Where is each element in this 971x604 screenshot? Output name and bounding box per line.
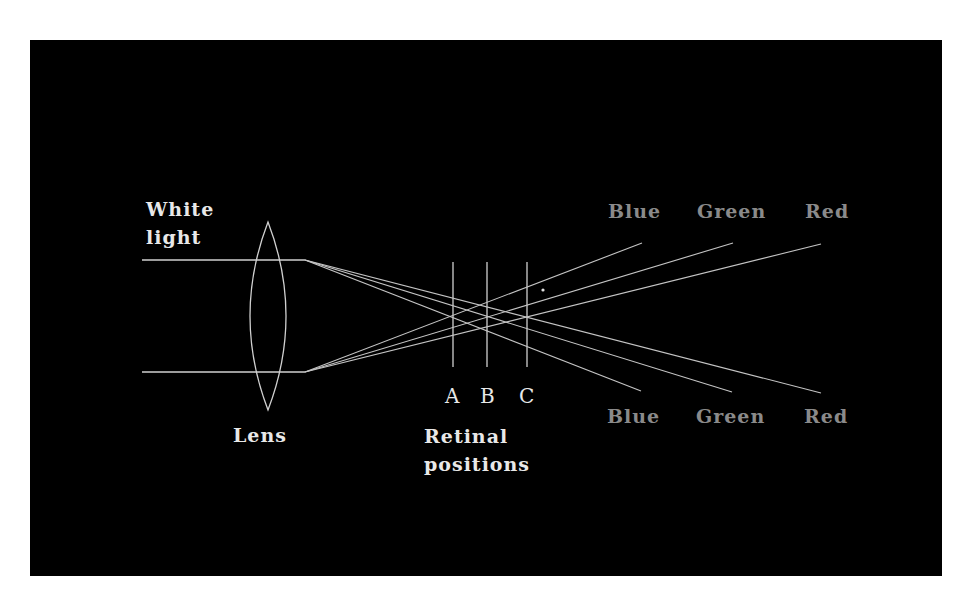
bottom-green-label: Green xyxy=(696,405,765,427)
ray-top-to-red xyxy=(305,260,821,393)
position-b-label: B xyxy=(480,385,496,407)
top-blue-label: Blue xyxy=(608,200,661,222)
lens-shape xyxy=(250,222,286,410)
position-a-label: A xyxy=(445,385,460,407)
retinal-label-line1: Retinal xyxy=(424,425,508,447)
bottom-red-label: Red xyxy=(804,405,848,427)
position-c-label: C xyxy=(519,385,535,407)
retinal-label-line2: positions xyxy=(424,453,530,475)
dot-artifact xyxy=(541,288,544,291)
lens-label: Lens xyxy=(233,424,287,446)
ray-bottom-to-green xyxy=(305,243,733,372)
white-light-label-line1: White xyxy=(146,198,214,220)
diagram-stage: White light Lens A B C Retinal positions… xyxy=(0,0,971,604)
ray-bottom-to-red xyxy=(305,244,821,372)
top-red-label: Red xyxy=(805,200,849,222)
ray-top-to-blue xyxy=(305,260,641,391)
optics-diagram xyxy=(0,0,971,604)
ray-bottom-to-blue xyxy=(305,243,642,372)
ray-top-to-green xyxy=(305,260,732,392)
top-green-label: Green xyxy=(697,200,766,222)
bottom-blue-label: Blue xyxy=(607,405,660,427)
white-light-label-line2: light xyxy=(146,226,201,248)
